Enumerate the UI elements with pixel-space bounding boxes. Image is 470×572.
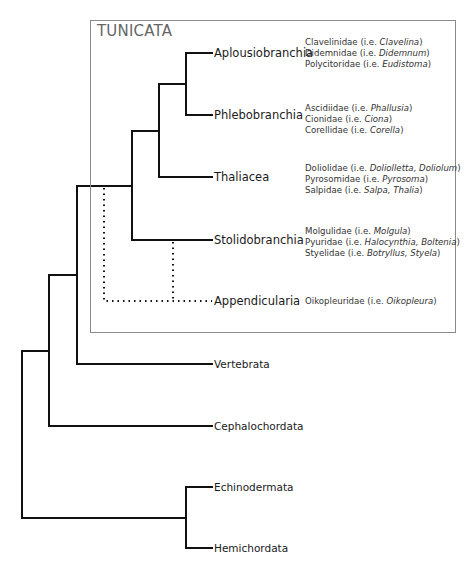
clade-label-phlebobranchia: Phlebobranchia [214,108,303,122]
taxon-label-echinodermata: Echinodermata [214,480,294,494]
taxon-label-cephalochordata: Cephalochordata [214,419,304,433]
family-list-aplousiobranchia: Clavelinidae (i.e. Clavelina) Didemnidae… [305,37,431,70]
family-list-phlebobranchia: Ascidiidae (i.e. Phallusia) Cionidae (i.… [305,103,412,136]
clade-label-appendicularia: Appendicularia [214,294,300,308]
family-list-stolidobranchia: Molgulidae (i.e. Molgula) Pyuridae (i.e.… [305,226,460,259]
taxon-label-hemichordata: Hemichordata [214,541,288,555]
clade-label-stolidobranchia: Stolidobranchia [214,233,304,247]
family-list-appendicularia: Oikopleuridae (i.e. Oikopleura) [305,296,437,307]
branch-root [22,351,186,518]
clade-label-aplousiobranchia: Aplousiobranchia [214,46,313,60]
taxon-label-vertebrata: Vertebrata [214,357,270,371]
tunicata-title: TUNICATA [97,22,172,40]
family-list-thaliacea: Doliolidae (i.e. Doliolletta, Doliolum) … [305,163,461,196]
clade-label-thaliacea: Thaliacea [214,170,269,184]
branch-ambulacraria [186,487,212,548]
